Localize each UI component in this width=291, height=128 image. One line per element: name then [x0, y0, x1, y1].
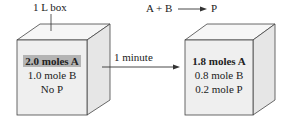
box-after-line-b: 0.8 mole B	[185, 68, 253, 82]
box-after-contents: 1.8 moles A 0.8 mole B 0.2 mole P	[185, 54, 253, 96]
box-before-line-b: 1.0 mole B	[17, 68, 87, 82]
box-before-line-p: No P	[17, 82, 87, 96]
box-volume-label: 1 L box	[33, 1, 67, 13]
time-arrow-icon	[102, 65, 180, 70]
reaction-arrow-icon	[178, 7, 207, 12]
reaction-lhs: A + B	[146, 2, 172, 14]
box-after-line-p: 0.2 mole P	[185, 82, 253, 96]
arrow-time-label: 1 minute	[114, 51, 153, 63]
box-before-line-a: 2.0 moles A	[23, 55, 80, 67]
reaction-rhs: P	[211, 2, 217, 14]
box-after-line-a: 1.8 moles A	[185, 54, 253, 68]
box-before-contents: 2.0 moles A 1.0 mole B No P	[17, 54, 87, 96]
